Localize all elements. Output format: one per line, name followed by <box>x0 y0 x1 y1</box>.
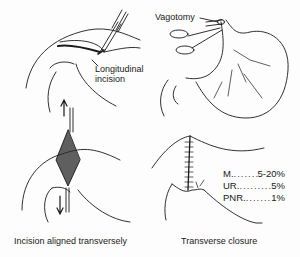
label-vagotomy: Vagotomy <box>155 12 195 22</box>
forceps-icon <box>98 10 128 54</box>
outcome-stats: M. 5-20% UR. 5% PNR. 1% <box>223 168 285 204</box>
label-incision: incision <box>95 74 125 84</box>
hemostat-clamp-icon <box>170 28 222 54</box>
label-longitudinal: Longitudinal <box>95 64 144 74</box>
incision-bottom-left <box>22 100 130 222</box>
diagram-illustration <box>0 0 300 257</box>
caption-incision-aligned: Incision aligned transversely <box>14 236 127 246</box>
stomach-top-right <box>161 20 289 119</box>
caption-transverse-closure: Transverse closure <box>181 236 257 246</box>
stat-row-mortality: M. 5-20% <box>223 168 285 180</box>
stat-row-ur: UR. 5% <box>223 180 285 192</box>
pyloroplasty-diagram: Longitudinal incision Vagotomy M. 5-20% … <box>0 0 300 257</box>
stat-row-pnr: PNR. 1% <box>223 192 285 204</box>
